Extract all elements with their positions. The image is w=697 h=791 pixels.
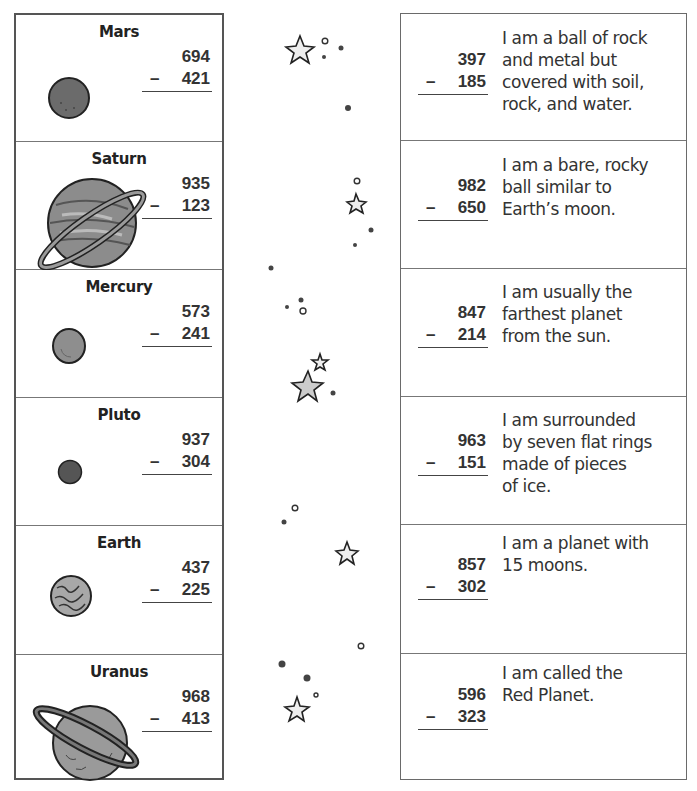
subtraction-problem: 857 –302 xyxy=(418,554,488,600)
subtrahend: 323 xyxy=(458,707,486,726)
clue-line: Red Planet. xyxy=(502,684,682,706)
planet-card-mercury: Mercury 573 –241 xyxy=(16,270,222,398)
dot-icon xyxy=(285,305,289,309)
clue-line: covered with soil, xyxy=(502,71,682,93)
star-icon xyxy=(336,542,358,564)
star-icon xyxy=(285,697,309,721)
minus-sign: – xyxy=(150,708,159,730)
subtrahend-row: –421 xyxy=(142,68,212,92)
planet-name: Pluto xyxy=(16,406,222,424)
subtraction-problem: 573 –241 xyxy=(142,301,212,347)
subtrahend-row: –241 xyxy=(142,323,212,347)
subtrahend: 302 xyxy=(458,577,486,596)
clue-card: 982 –650 I am a bare, rockyball similar … xyxy=(401,141,686,269)
subtrahend-row: –650 xyxy=(418,197,488,221)
subtrahend: 413 xyxy=(182,709,210,728)
pluto-icon xyxy=(57,459,83,485)
minus-sign: – xyxy=(426,576,435,598)
minus-sign: – xyxy=(426,706,435,728)
minus-sign: – xyxy=(426,71,435,93)
clue-line: 15 moons. xyxy=(502,554,682,576)
planet-card-earth: Earth 437 –225 xyxy=(16,526,222,655)
minus-sign: – xyxy=(426,452,435,474)
clue-text: I am called theRed Planet. xyxy=(502,662,682,706)
planet-card-pluto: Pluto 937 –304 xyxy=(16,398,222,526)
clue-line: I am surrounded xyxy=(502,409,682,431)
dot-icon xyxy=(300,308,306,314)
dot-icon xyxy=(353,243,357,247)
saturn-icon xyxy=(32,175,154,270)
planet-name: Mercury xyxy=(16,278,222,296)
subtrahend-row: –302 xyxy=(418,576,488,600)
subtrahend-row: –225 xyxy=(142,579,212,603)
minuend: 596 xyxy=(418,684,488,706)
subtrahend: 151 xyxy=(458,453,486,472)
subtrahend-row: –413 xyxy=(142,708,212,732)
clue-line: of ice. xyxy=(502,475,682,497)
clue-text: I am usually thefarthest planetfrom the … xyxy=(502,281,682,347)
dot-icon xyxy=(354,178,360,184)
subtraction-problem: 982 –650 xyxy=(418,175,488,221)
clue-line: from the sun. xyxy=(502,325,682,347)
clue-line: I am a ball of rock xyxy=(502,27,682,49)
subtrahend: 304 xyxy=(182,452,210,471)
planet-name: Mars xyxy=(16,23,222,41)
dot-icon xyxy=(339,46,344,51)
mars-icon xyxy=(46,75,92,121)
minus-sign: – xyxy=(150,323,159,345)
clue-line: by seven flat rings xyxy=(502,431,682,453)
subtraction-problem: 694 –421 xyxy=(142,46,212,92)
dot-icon xyxy=(292,505,298,511)
subtrahend-row: –151 xyxy=(418,452,488,476)
clue-card: 857 –302 I am a planet with15 moons. xyxy=(401,525,686,654)
decoration-stars xyxy=(240,0,390,791)
subtraction-problem: 847 –214 xyxy=(418,302,488,348)
star-icon xyxy=(286,36,314,63)
dot-icon xyxy=(322,38,328,44)
subtrahend-row: –185 xyxy=(418,71,488,95)
subtraction-problem: 437 –225 xyxy=(142,557,212,603)
minus-sign: – xyxy=(150,68,159,90)
planet-name: Saturn xyxy=(16,150,222,168)
clue-line: I am a planet with xyxy=(502,532,682,554)
planet-column: Mars 694 –421 Saturn 935 –123 Mercury 57… xyxy=(14,13,224,780)
clue-text: I am a bare, rockyball similar toEarth’s… xyxy=(502,154,682,220)
clue-line: ball similar to xyxy=(502,176,682,198)
subtraction-problem: 968 –413 xyxy=(142,686,212,732)
subtrahend: 214 xyxy=(458,325,486,344)
subtrahend: 650 xyxy=(458,198,486,217)
clue-text: I am a ball of rockand metal butcovered … xyxy=(502,27,682,115)
clue-line: Earth’s moon. xyxy=(502,198,682,220)
minuend: 982 xyxy=(418,175,488,197)
subtrahend: 123 xyxy=(182,196,210,215)
dot-icon xyxy=(279,661,286,668)
subtrahend: 185 xyxy=(458,72,486,91)
clue-line: made of pieces xyxy=(502,453,682,475)
clue-line: and metal but xyxy=(502,49,682,71)
clue-line: I am usually the xyxy=(502,281,682,303)
minuend: 573 xyxy=(142,301,212,323)
star-icon xyxy=(292,371,323,401)
clue-text: I am surroundedby seven flat ringsmade o… xyxy=(502,409,682,497)
minuend: 397 xyxy=(418,49,488,71)
clue-line: farthest planet xyxy=(502,303,682,325)
minuend: 937 xyxy=(142,429,212,451)
dot-icon xyxy=(304,675,311,682)
planet-name: Uranus xyxy=(16,663,222,681)
subtrahend: 421 xyxy=(182,69,210,88)
clue-card: 847 –214 I am usually thefarthest planet… xyxy=(401,269,686,397)
dot-icon xyxy=(369,228,374,233)
minuend: 694 xyxy=(142,46,212,68)
dot-icon xyxy=(299,298,304,303)
clue-line: rock, and water. xyxy=(502,93,682,115)
minus-sign: – xyxy=(426,324,435,346)
minuend: 968 xyxy=(142,686,212,708)
subtrahend-row: –323 xyxy=(418,706,488,730)
minuend: 963 xyxy=(418,430,488,452)
subtraction-problem: 937 –304 xyxy=(142,429,212,475)
planet-card-uranus: Uranus 968 –413 xyxy=(16,655,222,780)
subtrahend-row: –214 xyxy=(418,324,488,348)
clue-text: I am a planet with15 moons. xyxy=(502,532,682,576)
minuend: 847 xyxy=(418,302,488,324)
clue-line: I am called the xyxy=(502,662,682,684)
